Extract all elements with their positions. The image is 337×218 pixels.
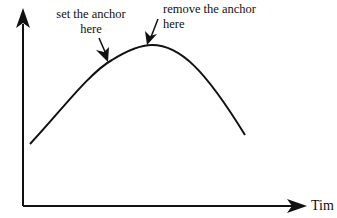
set-anchor-label: set the anchor here (46, 7, 136, 37)
remove-anchor-label-line1: remove the anchor (163, 2, 256, 17)
set-anchor-arrowhead-icon (96, 47, 109, 62)
remove-anchor-arrow-shaft (151, 19, 158, 37)
anchor-diagram: set the anchor here remove the anchor he… (0, 0, 337, 218)
remove-anchor-arrowhead-icon (145, 31, 157, 45)
remove-anchor-label-line2: here (163, 17, 256, 32)
remove-anchor-label: remove the anchor here (163, 2, 256, 32)
set-anchor-label-line2: here (46, 22, 136, 37)
hump-curve (30, 45, 245, 144)
set-anchor-label-line1: set the anchor (46, 7, 136, 22)
x-axis-label: Tim (311, 198, 334, 213)
